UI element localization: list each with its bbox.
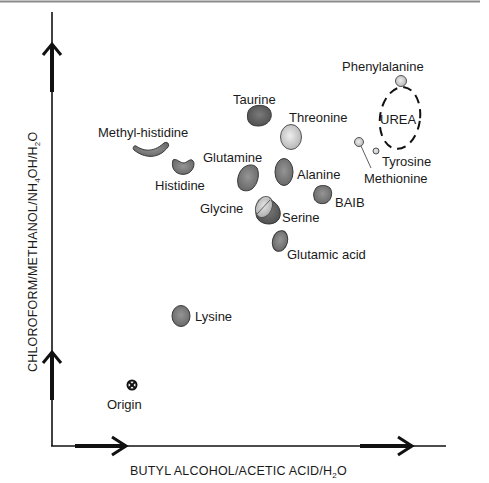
spot-label: Alanine <box>297 167 340 182</box>
x-axis <box>51 437 446 455</box>
spot-histidine: Histidine <box>155 159 205 193</box>
spot-glutamic-acid: Glutamic acid <box>270 229 366 262</box>
spot-glutamine: Glutamine <box>203 150 262 191</box>
spot-lysine: Lysine <box>172 306 232 327</box>
spot-label: Glutamine <box>203 150 262 165</box>
spot-label: Methyl-histidine <box>98 125 188 140</box>
y-axis-label: CHLOROFORM/METHANOL/NH4OH/H2O <box>26 131 42 372</box>
spot-label: Threonine <box>289 110 348 125</box>
spot-urea: UREA <box>376 85 424 152</box>
y-axis <box>43 12 61 446</box>
origin-marker: Origin <box>107 381 142 413</box>
spot-label: Histidine <box>155 178 205 193</box>
spot-label: Glycine <box>200 201 243 216</box>
spot-label: Lysine <box>195 309 232 324</box>
x-axis-label: BUTYL ALCOHOL/ACETIC ACID/H2O <box>130 464 347 480</box>
spot-baib: BAIB <box>314 186 365 210</box>
spot-label: Methionine <box>364 171 428 186</box>
spot-alanine: Alanine <box>275 159 340 186</box>
spot-label: BAIB <box>335 195 365 210</box>
spot-label: Serine <box>282 210 320 225</box>
spot-label: Tyrosine <box>382 154 431 169</box>
chromatography-figure: BUTYL ALCOHOL/ACETIC ACID/H2O CHLOROFORM… <box>0 0 489 483</box>
spot-threonine: Threonine <box>281 110 348 150</box>
spot-label: Glutamic acid <box>287 247 366 262</box>
spot-tyrosine: Tyrosine <box>373 148 431 169</box>
spot-glycine: Glycine <box>200 194 276 221</box>
spot-label: Phenylalanine <box>342 59 424 74</box>
spot-phenylalanine: Phenylalanine <box>342 59 424 87</box>
spot-methyl-histidine: Methyl-histidine <box>98 125 188 156</box>
spot-label: Taurine <box>233 92 276 107</box>
spot-label: UREA <box>380 112 416 127</box>
spot-taurine: Taurine <box>233 92 276 126</box>
origin-label: Origin <box>107 397 142 412</box>
